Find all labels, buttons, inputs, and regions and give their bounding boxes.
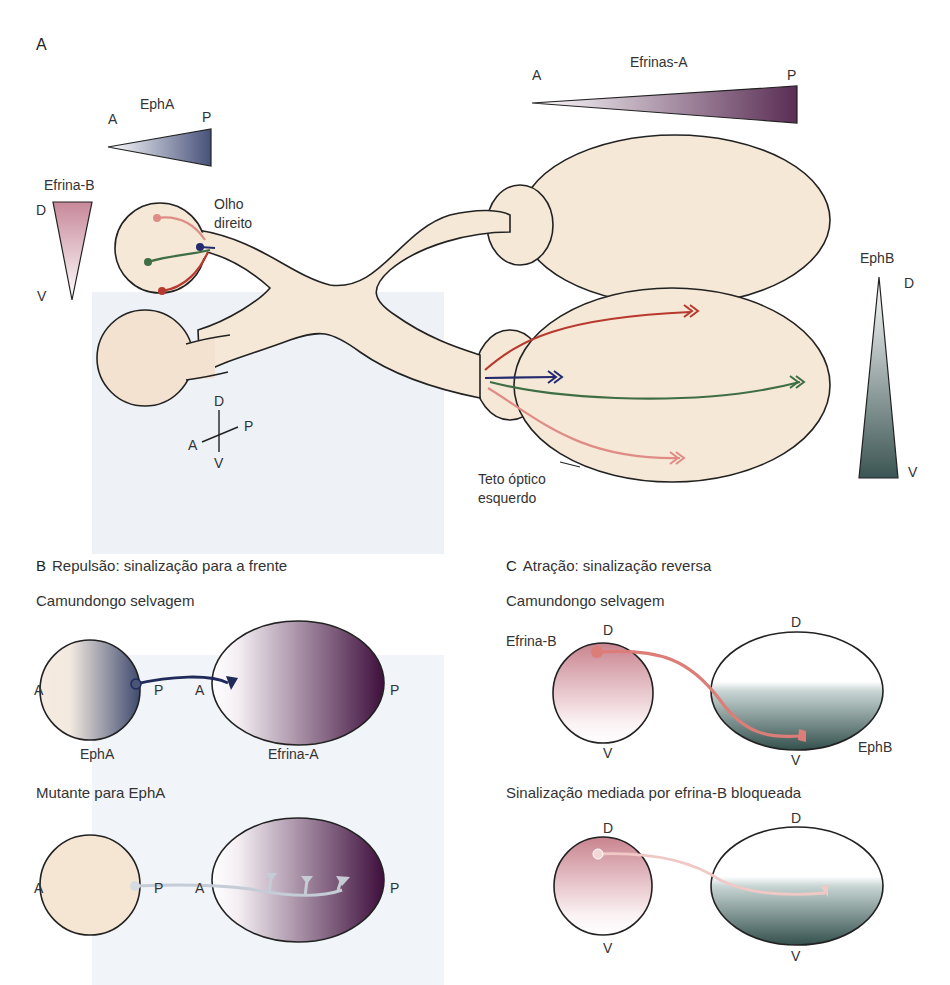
c-wt-growth-cone — [798, 729, 806, 742]
efrina-b-gradient-wedge — [53, 202, 92, 300]
axis-dorsal-label: D — [214, 393, 224, 409]
axis-ventral-label: V — [214, 455, 223, 471]
panel-c-letter: C — [506, 557, 517, 574]
b-mut-tectum-p: P — [390, 880, 399, 896]
axis-anterior-label: A — [188, 437, 197, 453]
c-blk-retina-d: D — [603, 820, 613, 836]
b-wt-axon-origin — [131, 679, 141, 689]
b-mut-retina-p: P — [154, 880, 163, 896]
c-wt-retina — [553, 643, 653, 743]
c-blk-tectum-v: V — [791, 948, 800, 964]
b-wt-tectum-a: A — [195, 682, 204, 698]
c-wt-retina-d: D — [603, 622, 613, 638]
right-eye-label-line2: direito — [214, 215, 252, 231]
b-wt-retina — [40, 640, 140, 740]
c-blk-retina — [554, 837, 652, 935]
b-wt-tectum-p: P — [390, 682, 399, 698]
epha-gradient-end: P — [202, 109, 211, 125]
b-wt-retina-a: A — [34, 682, 43, 698]
c-wt-tectum — [711, 632, 883, 750]
c-wt-tectum-label: EphB — [858, 739, 892, 755]
c-blk-axon-origin — [593, 849, 603, 859]
epha-gradient-start: A — [108, 111, 117, 127]
panel-c-blocked-subtitle: Sinalização mediada por efrina-B bloquea… — [506, 784, 801, 801]
efrinas-a-gradient-wedge — [532, 86, 797, 123]
axis-posterior-label: P — [244, 418, 253, 434]
panel-c-title: Atração: sinalização reversa — [523, 557, 711, 574]
panel-b-mutant-subtitle: Mutante para EphA — [36, 784, 165, 801]
b-wt-tectum-label: Efrina-A — [268, 746, 319, 762]
epha-gradient-wedge — [108, 129, 211, 166]
axon-origin-blue — [196, 243, 204, 251]
panel-a-letter: A — [36, 36, 47, 54]
panel-b-letter: B — [36, 557, 46, 574]
b-mut-axon-origin — [130, 881, 140, 891]
right-eye-label-line1: Olho — [214, 196, 244, 212]
efrina-b-gradient-start: D — [36, 202, 46, 218]
b-mut-retina-a: A — [34, 880, 43, 896]
c-wt-axon-origin — [591, 646, 603, 658]
c-blk-tectum-d: D — [791, 810, 801, 826]
tectum-label-line2: esquerdo — [478, 490, 536, 506]
b-mut-tectum-a: A — [195, 880, 204, 896]
efrinas-a-gradient-title: Efrinas-A — [630, 54, 688, 70]
left-eye — [97, 310, 193, 406]
ephb-gradient-start: D — [904, 275, 914, 291]
ephb-gradient-title: EphB — [860, 250, 894, 266]
panel-b-wt-subtitle: Camundongo selvagem — [36, 592, 194, 609]
c-wt-tectum-d: D — [791, 614, 801, 630]
efrinas-a-gradient-start: A — [532, 67, 541, 83]
axon-origin-pink — [153, 214, 161, 222]
b-mut-retina — [40, 835, 140, 935]
panel-b-title: Repulsão: sinalização para a frente — [52, 557, 287, 574]
efrina-b-gradient-title: Efrina-B — [44, 177, 95, 193]
ephb-gradient-end: V — [908, 464, 917, 480]
axon-origin-red — [158, 287, 166, 295]
b-wt-retina-label: EphA — [80, 746, 114, 762]
axon-origin-green — [144, 258, 152, 266]
figure-canvas — [0, 0, 950, 985]
b-wt-tectum — [212, 621, 384, 745]
efrina-b-gradient-end: V — [37, 288, 46, 304]
c-wt-retina-label: Efrina-B — [506, 633, 557, 649]
epha-gradient-title: EphA — [140, 96, 174, 112]
ephb-gradient-wedge — [859, 277, 898, 478]
panel-c-heading: CAtração: sinalização reversa — [506, 557, 711, 574]
panel-b-heading: BRepulsão: sinalização para a frente — [36, 557, 287, 574]
c-blk-retina-v: V — [603, 940, 612, 956]
panel-c-wt-subtitle: Camundongo selvagem — [506, 592, 664, 609]
b-wt-retina-p: P — [154, 682, 163, 698]
efrinas-a-gradient-end: P — [787, 67, 796, 83]
axis-cross-icon — [202, 410, 238, 452]
b-mut-tectum — [212, 818, 384, 942]
c-wt-retina-v: V — [603, 745, 612, 761]
tectum-label-line1: Teto óptico — [478, 471, 546, 487]
c-wt-tectum-v: V — [791, 752, 800, 768]
